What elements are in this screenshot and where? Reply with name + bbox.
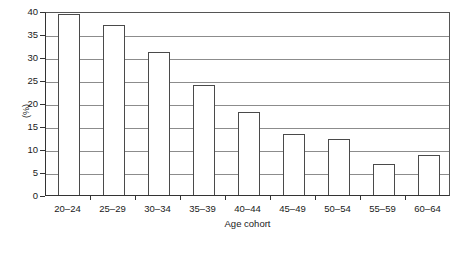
y-tick-label: 15 — [16, 122, 38, 132]
x-axis-tick-marks — [45, 196, 450, 201]
y-tick-label: 5 — [16, 168, 38, 178]
y-tick-label: 0 — [16, 191, 38, 201]
bar-chart: (%) 0510152025303540 20–2425–2930–3435–3… — [0, 0, 468, 260]
x-tick-mark — [405, 196, 406, 200]
plot-area — [45, 12, 450, 196]
y-tick-label: 40 — [16, 7, 38, 17]
x-tick-mark — [180, 196, 181, 200]
bar — [328, 139, 350, 195]
y-tick-label: 20 — [16, 99, 38, 109]
x-axis-tick-labels: 20–2425–2930–3435–3940–4445–4950–5455–59… — [45, 203, 450, 217]
bar — [373, 164, 395, 195]
y-tick-label: 35 — [16, 30, 38, 40]
bar — [283, 134, 305, 195]
x-tick-mark — [135, 196, 136, 200]
bar — [58, 14, 80, 195]
y-tick-label: 30 — [16, 53, 38, 63]
x-tick-label: 60–64 — [398, 203, 458, 215]
y-axis-tick-labels: 0510152025303540 — [16, 12, 38, 196]
y-tick-label: 25 — [16, 76, 38, 86]
bar-series — [46, 13, 449, 195]
x-tick-mark — [360, 196, 361, 200]
bar — [193, 85, 215, 195]
x-tick-mark — [315, 196, 316, 200]
x-tick-mark — [270, 196, 271, 200]
bar — [148, 52, 170, 195]
y-tick-label: 10 — [16, 145, 38, 155]
x-axis-label: Age cohort — [45, 218, 450, 230]
x-tick-mark — [90, 196, 91, 200]
bar — [418, 155, 440, 195]
bar — [238, 112, 260, 195]
x-tick-mark — [225, 196, 226, 200]
bar — [103, 25, 125, 195]
